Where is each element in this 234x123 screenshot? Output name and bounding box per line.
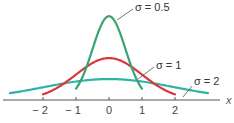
annotation-sigma-2: σ = 2 (183, 75, 219, 97)
tick-label: 0 (106, 104, 112, 116)
leader-line-sigma-0.5 (117, 9, 133, 20)
curve-sigma-0.5 (76, 16, 142, 88)
leader-line-sigma-2 (183, 86, 192, 97)
normal-distribution-chart: − 2− 1012 x σ = 0.5 σ = 1 σ = 2 (0, 0, 234, 123)
x-axis-label: x (225, 94, 232, 106)
annotation-sigma-0.5: σ = 0.5 (117, 1, 170, 20)
tick-label: 2 (172, 104, 178, 116)
tick-label: − 1 (65, 104, 81, 116)
curves-group (10, 16, 208, 94)
label-sigma-2: σ = 2 (194, 75, 219, 87)
tick-label: − 2 (32, 104, 48, 116)
label-sigma-0.5: σ = 0.5 (135, 1, 170, 13)
tick-label: 1 (139, 104, 145, 116)
curve-sigma-2 (10, 79, 208, 93)
label-sigma-1: σ = 1 (156, 59, 181, 71)
